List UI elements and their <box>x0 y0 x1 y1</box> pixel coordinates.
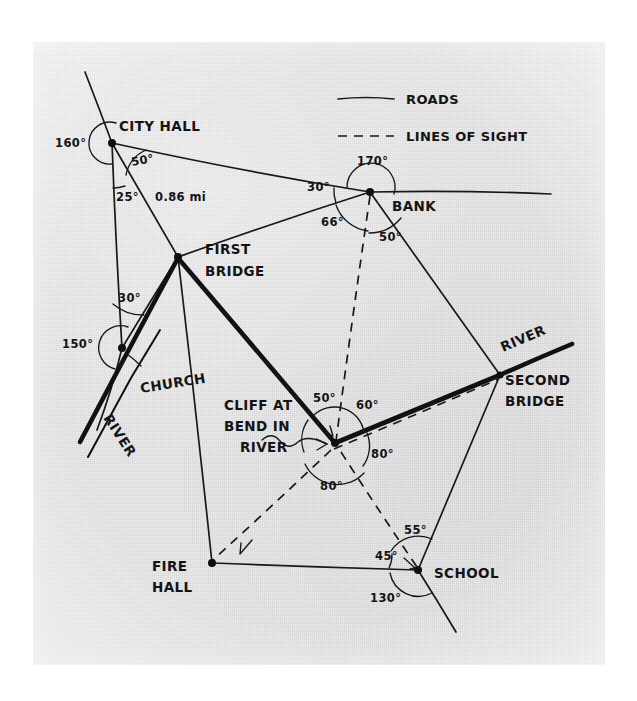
tick-school <box>404 558 415 569</box>
roads-layer <box>85 72 551 632</box>
angle-bank-south: 50° <box>379 230 402 244</box>
angle-cliff-northeast: 60° <box>356 398 379 412</box>
road-cityhall-to-bank <box>112 143 370 192</box>
screenshot-canvas: ROADS LINES OF SIGHT CITY HALL BANK FIRS… <box>0 0 637 701</box>
angle-cliff-south: 80° <box>320 479 343 493</box>
label-second-bridge-line2: BRIDGE <box>505 393 565 409</box>
label-river-east: RIVER <box>498 321 548 354</box>
node-school <box>414 566 422 574</box>
label-first-bridge-line1: FIRST <box>205 241 251 257</box>
tick-fire-hall <box>240 540 252 554</box>
label-church: CHURCH <box>139 370 207 396</box>
legend: ROADS LINES OF SIGHT <box>338 92 527 144</box>
angle-cliff-east: 80° <box>371 447 394 461</box>
label-second-bridge-line1: SECOND <box>505 372 570 388</box>
road-bank-east-tail <box>370 191 551 194</box>
arc-bank-west <box>334 188 336 203</box>
road-fire-hall-to-first-bridge <box>178 257 212 563</box>
angle-city-hall-south: 25° <box>116 190 139 204</box>
river-church-reach <box>80 258 178 442</box>
sight-cliff-to-fire-hall <box>213 450 331 560</box>
node-cliff <box>331 439 339 447</box>
label-bank: BANK <box>392 198 436 214</box>
arc-church-north <box>113 304 144 315</box>
angle-cliff-northwest: 50° <box>313 391 336 405</box>
road-bank-to-second-bridge <box>370 192 500 375</box>
sight-cliff-to-second-bridge <box>334 379 499 449</box>
angle-bank-west: 30° <box>307 180 330 194</box>
angle-school-northeast: 55° <box>404 523 427 537</box>
node-bank <box>366 188 374 196</box>
angle-school-west: 45° <box>375 549 398 563</box>
river-layer <box>80 258 572 457</box>
node-fire-hall <box>208 559 216 567</box>
legend-sight-label: LINES OF SIGHT <box>406 129 527 144</box>
arc-cliff-east <box>363 433 370 466</box>
node-church <box>118 344 126 352</box>
angle-church-reflex: 150° <box>62 337 93 351</box>
label-river-west: RIVER <box>100 411 139 460</box>
angle-labels: 160° 50° 25° 170° 30° 66° 50° 30° 150° 5… <box>55 136 427 605</box>
label-cliff-line2: BEND IN <box>224 418 290 434</box>
church-callout-pointer <box>127 354 141 366</box>
node-first-bridge <box>174 253 182 261</box>
angle-church-north: 30° <box>118 291 141 305</box>
angle-city-hall-reflex: 160° <box>55 136 86 150</box>
road-northwest-tail <box>85 72 112 143</box>
label-first-bridge-line2: BRIDGE <box>205 263 265 279</box>
angle-school-south: 130° <box>370 591 401 605</box>
road-cityhall-to-church <box>112 143 122 348</box>
legend-roads-swatch <box>338 98 394 100</box>
arc-cliff-northwest <box>302 420 308 452</box>
label-cliff-line3: RIVER <box>240 439 288 455</box>
label-distance-city-hall-first-bridge: 0.86 mi <box>155 190 206 204</box>
label-fire-hall-line1: FIRE <box>152 558 187 574</box>
node-second-bridge <box>496 371 503 378</box>
node-city-hall <box>108 139 116 147</box>
map-diagram: ROADS LINES OF SIGHT CITY HALL BANK FIRS… <box>0 0 637 701</box>
label-fire-hall-line2: HALL <box>152 579 193 595</box>
arc-city-hall-south <box>113 186 125 188</box>
angle-bank-southwest: 66° <box>321 215 344 229</box>
angle-city-hall-east: 50° <box>130 151 155 169</box>
road-school-to-fire-hall <box>212 563 418 570</box>
label-cliff-line1: CLIFF AT <box>224 397 293 413</box>
angle-bank-reflex: 170° <box>357 154 388 168</box>
label-city-hall: CITY HALL <box>119 118 200 134</box>
label-school: SCHOOL <box>434 565 499 581</box>
legend-roads-label: ROADS <box>406 92 459 107</box>
